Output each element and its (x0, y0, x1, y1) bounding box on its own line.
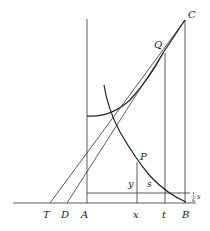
tractrix-curve (104, 85, 186, 202)
label-T: T (43, 209, 51, 220)
label-s: s (147, 179, 152, 189)
fraction-variable: s (197, 193, 201, 201)
fraction-denominator: 6 (192, 197, 195, 203)
label-C: C (188, 9, 196, 20)
label-P: P (139, 151, 147, 162)
label-A: A (80, 209, 88, 220)
label-x: x (133, 209, 139, 220)
label-y: y (127, 178, 134, 189)
upper-curve (87, 20, 185, 116)
label-D: D (60, 209, 69, 220)
geometry-diagram: C Q P y s T D A x t B 1 6 s (0, 0, 210, 231)
label-t: t (162, 209, 167, 220)
label-B: B (181, 209, 189, 220)
label-Q: Q (154, 39, 162, 50)
